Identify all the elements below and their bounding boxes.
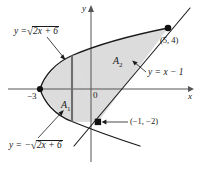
radical-upper: √2x + 6 [27,26,59,37]
origin-label: 0 [93,91,98,100]
equation-upper-curve-lhs: y = [14,26,27,36]
tick-label-neg3: −3 [27,92,37,101]
point-label-5-4: (5, 4) [160,36,178,45]
point-label-neg1-neg2: (−1, −2) [130,117,158,126]
leader-upper-curve-arrow [60,54,65,60]
equation-lower-curve-lhs: y = − [9,140,31,150]
x-axis-label: x [188,92,192,101]
region-label-a2-sub: 2 [119,61,123,69]
equation-upper-curve: y =√2x + 6 [14,26,59,37]
point-marker-neg1-neg2 [95,119,101,125]
y-axis-arrow [88,5,94,12]
region-label-a1-sub: 1 [67,105,71,113]
radical-lower-radicand: 2x + 6 [36,140,63,151]
region-label-a2: A2 [113,56,123,69]
radical-upper-radicand: 2x + 6 [32,26,59,37]
equation-line: y = x − 1 [148,68,184,78]
equation-lower-curve: y = −√2x + 6 [9,140,63,151]
radical-lower: √2x + 6 [31,140,63,151]
leader-upper-curve [47,37,64,58]
math-figure: y x 0 −3 A1 A2 y =√2x + 6 y = −√2x + 6 y… [0,0,200,170]
y-axis-label: y [82,4,86,13]
region-label-a1: A1 [61,100,71,113]
point-marker-5-4 [165,25,172,32]
point-marker-neg3-0 [37,86,43,92]
leader-point-neg1-neg2-arrow [102,120,107,125]
leader-lower-curve [38,112,62,138]
